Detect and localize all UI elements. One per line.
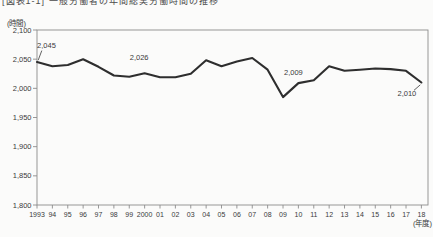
y-tick-label: 1,900	[13, 142, 32, 151]
x-tick-label: 15	[371, 211, 379, 218]
y-tick-label: 2,100	[13, 26, 32, 35]
x-tick-label: 97	[95, 211, 103, 218]
y-tick-label: 2,050	[13, 55, 32, 64]
x-tick-label: 12	[325, 211, 333, 218]
y-tick-label: 2,000	[13, 84, 32, 93]
x-tick-label: 94	[48, 211, 56, 218]
annotation-leader-line	[38, 51, 42, 61]
x-tick-label: 1993	[29, 211, 45, 218]
x-axis-unit-label: (年度)	[413, 218, 432, 228]
x-tick-label: 08	[264, 211, 272, 218]
x-tick-label: 2000	[137, 211, 153, 218]
x-tick-label: 17	[402, 211, 410, 218]
x-tick-label: 14	[356, 211, 364, 218]
x-tick-label: 06	[233, 211, 241, 218]
x-tick-label: 01	[156, 211, 164, 218]
x-tick-label: 07	[248, 211, 256, 218]
line-chart: 2,1002,0502,0001,9501,9001,8501,80019939…	[0, 0, 433, 237]
data-point-label: 2,009	[284, 68, 303, 77]
x-tick-label: 09	[279, 211, 287, 218]
x-tick-label: 13	[341, 211, 349, 218]
x-tick-label: 05	[218, 211, 226, 218]
x-tick-label: 10	[294, 211, 302, 218]
data-point-label: 2,045	[37, 41, 56, 50]
x-tick-label: 96	[79, 211, 87, 218]
x-tick-label: 16	[387, 211, 395, 218]
y-tick-label: 1,950	[13, 113, 32, 122]
x-tick-label: 03	[187, 211, 195, 218]
data-point-label: 2,026	[130, 53, 149, 62]
x-tick-label: 99	[125, 211, 133, 218]
y-tick-label: 1,800	[13, 201, 32, 210]
data-point-label: 2,010	[398, 89, 417, 98]
x-tick-label: 02	[171, 211, 179, 218]
working-hours-line	[37, 58, 421, 97]
x-tick-label: 18	[418, 211, 426, 218]
x-tick-label: 98	[110, 211, 118, 218]
x-tick-label: 95	[64, 211, 72, 218]
x-tick-label: 04	[202, 211, 210, 218]
y-tick-label: 1,850	[13, 171, 32, 180]
plot-frame	[37, 30, 428, 205]
page: { "title_partial": "[図表1-1] 一般労働者の年間総実労働…	[0, 0, 433, 237]
x-tick-label: 11	[310, 211, 317, 218]
